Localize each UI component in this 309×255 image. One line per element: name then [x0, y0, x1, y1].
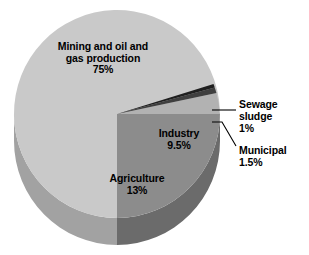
slice-label-mining-value: 75% — [33, 64, 173, 76]
slice-label-mining-line1: Mining and oil and — [33, 41, 173, 53]
callout-label-sewage-sludge-line2: sludge — [239, 111, 278, 123]
slice-label-mining: Mining and oil and gas production 75% — [33, 41, 173, 76]
slice-label-agriculture-line1: Agriculture — [91, 173, 183, 185]
callout-label-sewage-sludge-value: 1% — [239, 123, 278, 135]
slice-label-agriculture: Agriculture 13% — [91, 173, 183, 196]
callout-label-municipal: Municipal 1.5% — [239, 145, 287, 169]
slice-label-industry-value: 9.5% — [140, 140, 218, 152]
callout-label-sewage-sludge: Sewage sludge 1% — [239, 99, 278, 134]
slice-label-agriculture-value: 13% — [91, 185, 183, 197]
callout-label-municipal-value: 1.5% — [239, 157, 287, 169]
slice-label-industry-line1: Industry — [140, 128, 218, 140]
slice-label-industry: Industry 9.5% — [140, 128, 218, 151]
pie-chart-figure: Mining and oil and gas production 75% In… — [0, 0, 309, 255]
